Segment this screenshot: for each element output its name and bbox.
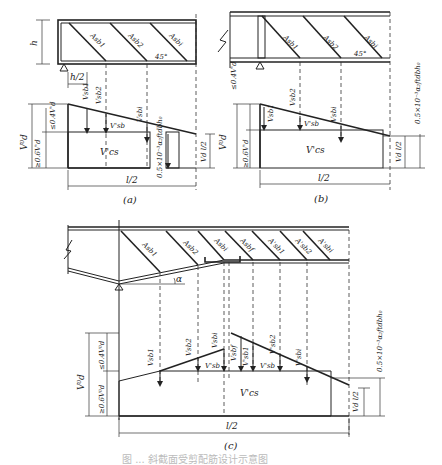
panel-b-caption: (b) xyxy=(314,193,328,204)
half-h-label: h/2 xyxy=(70,72,85,82)
figure-caption: 图 ... 斜截面受剪配筋设计示意图 xyxy=(122,453,268,465)
span-label: l/2 xyxy=(318,173,330,183)
vsbi-prime-label: V'sbi xyxy=(295,349,303,366)
height-label: h xyxy=(29,40,39,46)
beam-a: Asb1 Asb2 Asbi 45° h h/2 xyxy=(29,20,196,88)
angle-label: 45° xyxy=(154,53,167,61)
upper-share-label: ≤0.4V'd xyxy=(230,61,238,90)
shear-envelope-c: Vsb1 Vsb2 Vsbi Vsbf V'sb1 V'sb2 V'sbi V'… xyxy=(76,310,385,437)
shear-envelope-b: Vsb1 Vsb2 Vsbi V'sb V'cs V⁰d ≤0.4V'd ≥0.… xyxy=(218,61,425,188)
lower-share-label: ≥0.6V'd xyxy=(242,139,250,168)
panel-c-caption: (c) xyxy=(224,440,238,451)
panel-c: Asb1 Asb2 Asbi Asbf A'sb1 A'sb2 A'sbi α xyxy=(64,220,385,451)
vd-half-label: Vd l/2 xyxy=(200,141,208,162)
bar-label-asb2: Asb2 xyxy=(321,33,340,52)
vsb-label: V'sb xyxy=(304,120,320,128)
vsbi-label: Vsbi xyxy=(330,107,338,122)
angle-label: 45° xyxy=(353,50,366,58)
vsbi-label: Vsbi xyxy=(211,333,219,348)
bar-label-asbi: Asbi xyxy=(212,236,229,253)
vsbf-label: Vsbf xyxy=(230,344,238,361)
panel-a: Asb1 Asb2 Asbi 45° h h/2 xyxy=(19,14,215,205)
support-icon xyxy=(256,62,264,69)
lower-share-label: ≥0.6V'd xyxy=(34,139,42,168)
bar-label-asbi: Asbi xyxy=(362,33,379,50)
bar-label-asbf: Asbf xyxy=(238,236,256,254)
vsb2-label: Vsb2 xyxy=(289,88,297,106)
bar-label-asbi-prime: A'sbi xyxy=(316,236,335,255)
span-label: l/2 xyxy=(226,421,238,431)
limit-label: 0.5×10⁻³α₂ftdbh₀ xyxy=(414,62,422,124)
panel-a-caption: (a) xyxy=(123,194,137,205)
angle-label: α xyxy=(176,274,182,284)
shear-diagram-canvas: Asb1 Asb2 Asbi 45° h h/2 xyxy=(0,0,442,465)
bar-label-asbi: Asbi xyxy=(167,31,184,48)
bar-label-asb2: Asb2 xyxy=(126,31,145,50)
vsb1-prime-label: V'sb1 xyxy=(242,346,250,366)
panel-b: Asb1 Asb2 Asbi 45° Vsb1 Vsb2 Vsbi V'sb V… xyxy=(218,12,425,204)
vcs-label: V'cs xyxy=(306,145,325,155)
vsb1-label: Vsb1 xyxy=(147,348,155,366)
vsb-label: V'sb xyxy=(110,122,126,130)
upper-share-label: ≤0.4V⁰d xyxy=(98,340,106,370)
break-line-icon xyxy=(218,30,228,52)
beam-b: Asb1 Asb2 Asbi 45° xyxy=(218,12,390,69)
vsb-prime-label: V'sb xyxy=(260,362,276,370)
bar-label-asb1: Asb1 xyxy=(281,33,300,52)
vcs-label: V'cs xyxy=(100,147,119,157)
shear-envelope-a: Vsb1 Vsb2 Vsbi V'sb V'cs 0.5×10⁻³α₂ftdbh… xyxy=(19,82,215,190)
limit-label: 0.5×10⁻³α₂ftdbh₀ xyxy=(376,310,384,372)
vd-half-label: Vd l/2 xyxy=(395,141,403,162)
limit-label: 0.5×10⁻³α₂ftdbh₀ xyxy=(156,116,164,178)
vsb1-label: Vsb1 xyxy=(267,104,275,122)
vd0-label: V⁰d xyxy=(76,374,86,390)
vd0-label: V⁰d xyxy=(19,134,29,150)
vsb-label: V'sb xyxy=(205,362,221,370)
bar-label-asb1: Asb1 xyxy=(140,240,159,259)
vd0-label: V⁰d xyxy=(218,134,228,150)
vsb1-label: Vsb1 xyxy=(82,82,90,100)
vd-half-label: Vd l/2 xyxy=(352,391,360,412)
support-icon xyxy=(60,64,68,71)
vsb2-prime-label: V'sb2 xyxy=(269,334,277,354)
vsb2-label: Vsb2 xyxy=(95,86,103,104)
vsb2-label: Vsb2 xyxy=(185,338,193,356)
bar-label-asb2: Asb2 xyxy=(181,238,200,257)
span-label: l/2 xyxy=(126,175,138,185)
bar-label-asb1-prime: A'sb1 xyxy=(266,236,286,256)
bar-label-asb1: Asb1 xyxy=(88,31,107,50)
lower-share-label: ≥0.6V⁰d xyxy=(98,384,106,414)
vsbi-label: Vsbi xyxy=(136,107,144,122)
vcs-label: V'cs xyxy=(240,388,259,398)
upper-share-label: ≤0.4V'd xyxy=(49,101,57,130)
